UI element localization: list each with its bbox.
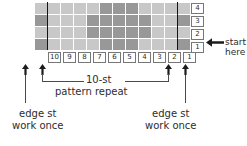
stitch-cell-r3-c12 [178,15,190,26]
stitch-cell-r2-c6 [100,27,112,38]
stitch-cell-r4-c7 [113,3,125,14]
column-number-5: 5 [123,52,136,63]
stitch-cell-r1-c8 [126,39,138,50]
column-number-9: 9 [63,52,76,63]
repeat-count-label: 10-st [86,74,111,86]
stitch-cell-r2-c5 [87,27,99,38]
stitch-cell-r2-c4 [74,27,86,38]
repeat-bracket-rail-right [125,81,169,82]
stitch-cell-r4-c6 [100,3,112,14]
stitch-cell-r1-c9 [139,39,151,50]
stitch-grid [35,3,191,51]
stitch-cell-r3-c6 [100,15,112,26]
start-here-line1: start [225,37,246,47]
stitch-cell-r3-c11 [165,15,177,26]
stitch-cell-r2-c12 [178,27,190,38]
stitch-cell-r4-c8 [126,3,138,14]
stitch-cell-r1-c7 [113,39,125,50]
stitch-cell-r1-c2 [48,39,60,50]
stitch-cell-r1-c5 [87,39,99,50]
edge-stitch-label-left: edge st work once [12,108,63,132]
stitch-cell-r2-c7 [113,27,125,38]
stitch-cell-r1-c3 [61,39,73,50]
annotation-area: 10-st pattern repeat edge st work once e… [0,64,247,146]
up-arrow-icon-edge-left-outer [22,64,29,75]
stitch-row [35,3,191,15]
stitch-cell-r2-c10 [152,27,164,38]
stitch-cell-r4-c10 [152,3,164,14]
stitch-cell-r4-c5 [87,3,99,14]
stitch-cell-r4-c11 [165,3,177,14]
stitch-cell-r4-c4 [74,3,86,14]
column-number-1: 1 [183,52,196,63]
stitch-cell-r2-c9 [139,27,151,38]
stitch-cell-r1-c10 [152,39,164,50]
stitch-row [35,27,191,39]
row-number-2: 2 [191,29,204,40]
row-number-4: 4 [191,3,204,14]
edge-stitch-label-right: edge st work once [145,108,196,132]
stitch-cell-r3-c9 [139,15,151,26]
stitch-cell-r3-c5 [87,15,99,26]
start-here-line2: here [225,47,246,57]
stitch-cell-r4-c12 [178,3,190,14]
repeat-bracket-right-stub [168,74,169,82]
row-number-3: 3 [191,16,204,27]
column-number-4: 4 [138,52,151,63]
column-number-7: 7 [93,52,106,63]
repeat-bracket-rail-left [42,81,84,82]
edge-right-line1: edge st [145,108,196,120]
stitch-cell-r4-c1 [35,3,47,14]
left-arrow-icon [206,37,224,48]
stitch-cell-r2-c11 [165,27,177,38]
stitch-row [35,39,191,51]
stitch-cell-r1-c11 [165,39,177,50]
repeat-boundary-line-right [177,2,179,50]
repeat-text-label: pattern repeat [55,86,128,98]
edge-right-line2: work once [145,120,196,132]
stitch-cell-r2-c1 [35,27,47,38]
start-here-label: start here [225,37,246,57]
stitch-cell-r2-c8 [126,27,138,38]
stitch-cell-r4-c3 [61,3,73,14]
up-arrow-icon-edge-right-outer [182,64,189,75]
stitch-cell-r3-c10 [152,15,164,26]
column-number-10: 10 [48,52,61,63]
row-number-column: 4321 [191,3,204,55]
stitch-cell-r4-c9 [139,3,151,14]
column-number-row: 10987654321 [48,52,198,63]
column-number-2: 2 [168,52,181,63]
stitch-grid-wrapper [35,3,191,51]
stitch-cell-r3-c8 [126,15,138,26]
stitch-cell-r4-c2 [48,3,60,14]
column-number-8: 8 [78,52,91,63]
edge-left-leader-line [25,75,26,103]
stitch-cell-r3-c4 [74,15,86,26]
repeat-boundary-line-left [47,2,49,50]
edge-left-line2: work once [12,120,63,132]
column-number-6: 6 [108,52,121,63]
stitch-cell-r1-c4 [74,39,86,50]
knitting-chart-figure: 4321 start here 10987654321 10-st [0,0,247,146]
edge-right-leader-line [185,75,186,103]
stitch-cell-r2-c2 [48,27,60,38]
column-number-3: 3 [153,52,166,63]
start-here-group: start here [206,37,246,57]
stitch-cell-r3-c1 [35,15,47,26]
stitch-cell-r2-c3 [61,27,73,38]
edge-left-line1: edge st [12,108,63,120]
stitch-cell-r3-c7 [113,15,125,26]
stitch-cell-r1-c6 [100,39,112,50]
stitch-cell-r1-c12 [178,39,190,50]
stitch-cell-r3-c3 [61,15,73,26]
stitch-row [35,15,191,27]
stitch-cell-r1-c1 [35,39,47,50]
stitch-cell-r3-c2 [48,15,60,26]
